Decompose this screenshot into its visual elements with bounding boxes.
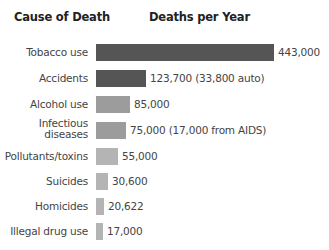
bar xyxy=(96,148,118,165)
bar xyxy=(96,44,274,61)
column-header-cause: Cause of Death xyxy=(14,10,110,24)
value-label: 443,000 xyxy=(278,46,320,58)
bar xyxy=(96,173,108,190)
category-label: Alcohol use xyxy=(30,99,88,110)
bar-row: Suicides30,600 xyxy=(0,173,329,190)
value-label: 55,000 xyxy=(122,150,158,162)
bar-row: Homicides20,622 xyxy=(0,198,329,215)
category-label: Homicides xyxy=(35,201,88,212)
category-label: Suicides xyxy=(46,176,88,187)
bar-row: Pollutants/toxins55,000 xyxy=(0,148,329,165)
bar xyxy=(96,96,130,113)
category-label: Accidents xyxy=(39,73,88,84)
value-label: 17,000 xyxy=(107,225,143,237)
bar xyxy=(96,70,146,87)
bar-row: Infectiousdiseases75,000 (17,000 from AI… xyxy=(0,122,329,139)
column-header-deaths: Deaths per Year xyxy=(149,10,250,24)
value-label: 85,000 xyxy=(134,98,170,110)
value-label: 20,622 xyxy=(108,200,144,212)
bar xyxy=(96,198,104,215)
category-label: Illegal drug use xyxy=(10,226,88,237)
bar-row: Accidents123,700 (33,800 auto) xyxy=(0,70,329,87)
value-label: 123,700 (33,800 auto) xyxy=(150,72,264,84)
bar-row: Illegal drug use17,000 xyxy=(0,223,329,240)
category-label: Infectiousdiseases xyxy=(39,118,88,140)
value-label: 30,600 xyxy=(112,175,148,187)
bar xyxy=(96,223,103,240)
value-label: 75,000 (17,000 from AIDS) xyxy=(130,124,266,136)
bar xyxy=(96,122,126,139)
category-label: Tobacco use xyxy=(26,47,88,58)
category-label: Pollutants/toxins xyxy=(5,151,88,162)
bar-row: Alcohol use85,000 xyxy=(0,96,329,113)
bar-row: Tobacco use443,000 xyxy=(0,44,329,61)
